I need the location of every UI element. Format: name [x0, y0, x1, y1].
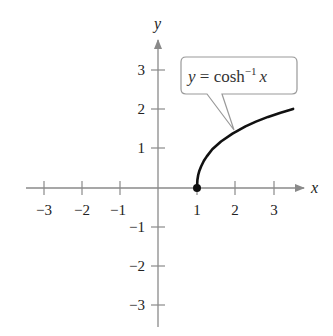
callout: y = cosh−1x [181, 57, 297, 130]
y-tick-label: −2 [129, 258, 145, 274]
x-tick-label: −2 [74, 202, 90, 218]
y-tick-label: 3 [138, 62, 146, 78]
x-tick-label: −1 [110, 202, 126, 218]
y-axis-label: y [152, 15, 162, 33]
y-tick-label: 1 [138, 140, 146, 156]
x-tick-label: 1 [193, 202, 201, 218]
y-tick-label: −1 [129, 219, 145, 235]
x-tick-label: 2 [231, 202, 239, 218]
y-tick-label: −3 [129, 297, 145, 313]
x-tick-label: 3 [270, 202, 278, 218]
plot: −3 −2 −1 1 2 3 3 2 1 −1 −2 −3 x y y = co… [0, 0, 333, 336]
x-tick-label: −3 [36, 202, 52, 218]
x-axis-label: x [310, 179, 318, 196]
y-tick-label: 2 [138, 101, 146, 117]
start-point-dot [193, 184, 201, 192]
arccosh-curve [197, 109, 293, 188]
